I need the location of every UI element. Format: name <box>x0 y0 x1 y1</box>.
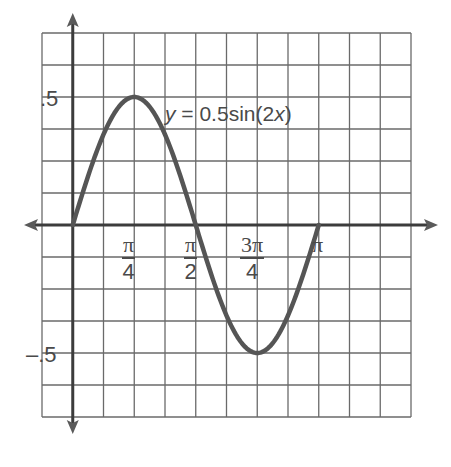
x-tick-denominator: 4 <box>122 259 134 283</box>
x-tick-numerator: π <box>122 234 135 259</box>
equation-label: y = 0.5sin(2x) <box>165 103 292 124</box>
equation-lhs: y <box>165 102 176 125</box>
axes <box>24 13 438 434</box>
x-tick-label-pi: π <box>312 234 323 256</box>
x-tick-numerator: π <box>184 234 197 259</box>
chart-plot-area <box>0 0 451 467</box>
x-tick-denominator: 2 <box>184 259 196 283</box>
equation-mid: = 0.5sin(2 <box>176 102 275 125</box>
equation-close: ) <box>285 102 292 125</box>
x-tick-label-pi-over-2: π 2 <box>184 234 197 283</box>
equation-var: x <box>274 102 285 125</box>
y-tick-label-0.5: .5 <box>40 88 58 110</box>
y-tick-label-neg-0.5: –.5 <box>26 344 57 366</box>
x-tick-label-3pi-over-4: 3π 4 <box>240 234 264 283</box>
x-tick-numerator: 3π <box>240 234 264 259</box>
x-tick-denominator: 4 <box>246 259 258 283</box>
x-tick-label-pi-over-4: π 4 <box>122 234 135 283</box>
